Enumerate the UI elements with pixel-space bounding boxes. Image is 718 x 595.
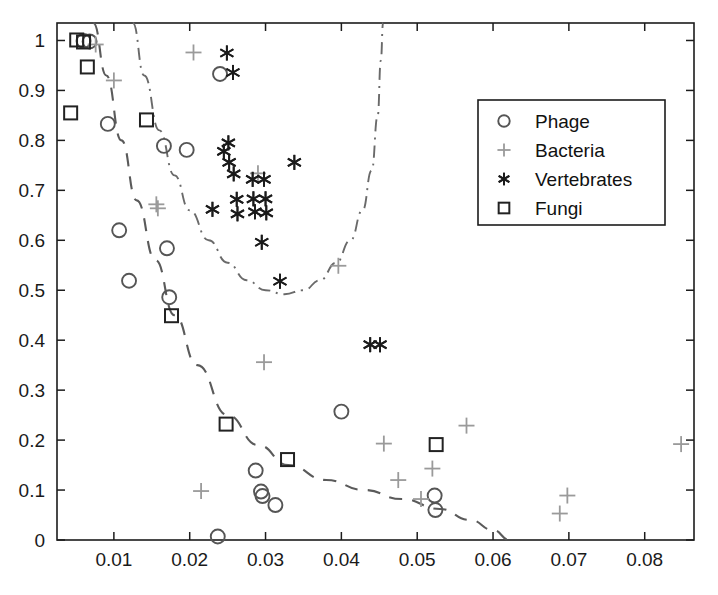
marker-circle [211,530,225,544]
marker-star [374,337,387,352]
marker-circle [249,464,263,478]
marker-circle [112,223,126,237]
x-tick-label: 0.01 [95,549,132,570]
marker-star [231,206,244,221]
marker-star [260,205,273,220]
scatter-plot-figure: 0.010.020.030.040.050.060.070.0800.10.20… [0,0,718,595]
marker-square [140,113,153,126]
marker-star [230,192,243,207]
legend-item-label: Vertebrates [535,169,632,190]
marker-plus [673,436,689,452]
marker-star [259,191,272,206]
boundary-curves [93,23,509,540]
y-tick-label: 0.9 [19,80,45,101]
x-tick-label: 0.02 [171,549,208,570]
marker-square [64,106,77,119]
y-tick-label: 0 [34,530,45,551]
y-tick-label: 1 [34,30,45,51]
marker-plus [559,488,575,504]
marker-plus [106,72,122,88]
marker-circle [162,290,176,304]
y-tick-label: 0.1 [19,480,45,501]
marker-plus [376,436,392,452]
marker-star [288,155,301,170]
marker-star [364,337,377,352]
y-tick-label: 0.3 [19,380,45,401]
series-vertebrates [206,45,387,352]
marker-plus [424,461,440,477]
marker-plus [459,418,475,434]
marker-square [430,438,443,451]
marker-circle [213,67,227,81]
marker-star [206,202,219,217]
marker-circle [101,117,115,131]
marker-plus [390,472,406,488]
marker-circle [160,241,174,255]
marker-circle [157,139,171,153]
marker-plus [186,44,202,60]
x-tick-label: 0.06 [475,549,512,570]
marker-star [248,204,261,219]
marker-plus [413,491,429,507]
x-tick-label: 0.08 [626,549,663,570]
legend[interactable]: PhageBacteriaVertebratesFungi [478,100,665,225]
x-tick-label: 0.07 [550,549,587,570]
boundary-curve-dashed [93,23,509,540]
marker-plus [148,196,164,212]
marker-star [247,191,260,206]
legend-item-label: Phage [535,111,590,132]
marker-plus [256,354,272,370]
marker-star [255,235,268,250]
marker-circle [122,274,136,288]
y-tick-label: 0.4 [19,330,46,351]
marker-circle [180,143,194,157]
y-tick-label: 0.8 [19,130,45,151]
legend-item-label: Bacteria [535,140,605,161]
marker-plus [150,200,166,216]
marker-circle [428,489,442,503]
marker-square [220,418,233,431]
marker-circle [334,405,348,419]
legend-item-label: Fungi [535,198,583,219]
y-tick-label: 0.5 [19,280,45,301]
y-tick-label: 0.2 [19,430,45,451]
x-tick-label: 0.03 [247,549,284,570]
x-tick-label: 0.04 [323,549,360,570]
marker-star [273,274,286,289]
marker-plus [193,483,209,499]
y-tick-label: 0.6 [19,230,45,251]
marker-circle [268,498,282,512]
y-tick-label: 0.7 [19,180,45,201]
marker-plus [330,258,346,274]
marker-star [220,45,233,60]
x-tick-label: 0.05 [399,549,436,570]
marker-star [226,65,239,80]
marker-square [81,60,94,73]
plot-canvas: 0.010.020.030.040.050.060.070.0800.10.20… [0,0,718,595]
marker-plus [552,506,568,522]
series-fungi [64,33,443,466]
